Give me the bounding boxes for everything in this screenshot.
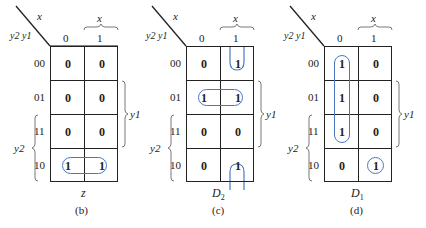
row-label-10: 10 bbox=[34, 159, 45, 171]
col-label-1: 1 bbox=[97, 32, 103, 44]
kmap-c: x y2 y1 x 0 1 00 01 11 10 y1 y2 0 1 1 1 … bbox=[136, 0, 276, 228]
row-label-01: 01 bbox=[308, 91, 319, 103]
row-var-label: y2 y1 bbox=[146, 30, 167, 41]
cell-10-0: 0 bbox=[325, 149, 359, 183]
cell-11-1: 0 bbox=[359, 115, 393, 149]
cell-00-1: 1 bbox=[221, 47, 255, 81]
caption: (d) bbox=[350, 204, 363, 216]
cell-00-0: 0 bbox=[51, 47, 85, 81]
y1-brace-label: y1 bbox=[404, 108, 414, 120]
kmap-grid: 0 0 0 0 0 0 1 1 bbox=[50, 46, 118, 182]
row-label-10: 10 bbox=[308, 159, 319, 171]
row-var-label: y2 y1 bbox=[10, 30, 31, 41]
group-loop-row-01 bbox=[198, 89, 243, 106]
caption: (c) bbox=[212, 204, 224, 216]
cell-00-1: 0 bbox=[85, 47, 119, 81]
row-label-11: 11 bbox=[308, 125, 319, 137]
row-label-11: 11 bbox=[170, 125, 181, 137]
row-var-label: y2 y1 bbox=[284, 30, 305, 41]
cell-11-1: 0 bbox=[221, 115, 255, 149]
group-loop-col-0 bbox=[334, 55, 350, 143]
function-name: D1 bbox=[351, 186, 364, 202]
row-label-01: 01 bbox=[34, 91, 45, 103]
kmap-b: x y2 y1 x 0 1 00 01 11 10 y1 y2 0 0 0 0 … bbox=[0, 0, 140, 228]
col-label-0: 0 bbox=[199, 32, 205, 44]
group-loop-single bbox=[367, 157, 384, 174]
y2-brace-label: y2 bbox=[14, 142, 24, 154]
x-brace-label: x bbox=[97, 12, 102, 24]
cell-11-0: 0 bbox=[51, 115, 85, 149]
kmap-d: x y2 y1 x 0 1 00 01 11 10 y1 y2 1 0 1 0 … bbox=[274, 0, 414, 228]
cell-11-1: 0 bbox=[85, 115, 119, 149]
row-label-01: 01 bbox=[170, 91, 181, 103]
cell-01-1: 0 bbox=[359, 81, 393, 115]
row-label-00: 00 bbox=[170, 57, 181, 69]
x-brace-label: x bbox=[371, 12, 376, 24]
col-var-label: x bbox=[173, 10, 178, 22]
y2-brace-label: y2 bbox=[288, 142, 298, 154]
kmap-grid: 0 1 1 1 0 0 0 1 bbox=[186, 46, 254, 182]
y2-brace-label: y2 bbox=[150, 142, 160, 154]
function-name: D2 bbox=[212, 186, 225, 202]
cell-11-0: 0 bbox=[187, 115, 221, 149]
cell-00-1: 0 bbox=[359, 47, 393, 81]
cell-01-1: 0 bbox=[85, 81, 119, 115]
col-var-label: x bbox=[311, 10, 316, 22]
col-label-1: 1 bbox=[371, 32, 377, 44]
col-label-1: 1 bbox=[233, 32, 239, 44]
cell-01-0: 0 bbox=[51, 81, 85, 115]
row-label-00: 00 bbox=[34, 57, 45, 69]
kmap-grid: 1 0 1 0 1 0 0 1 bbox=[324, 46, 392, 182]
group-loop bbox=[62, 157, 107, 174]
cell-00-0: 0 bbox=[187, 47, 221, 81]
function-name: z bbox=[81, 186, 86, 201]
cell-10-1: 1 bbox=[221, 149, 255, 183]
col-var-label: x bbox=[37, 10, 42, 22]
col-label-0: 0 bbox=[63, 32, 69, 44]
row-label-00: 00 bbox=[308, 57, 319, 69]
col-label-0: 0 bbox=[337, 32, 343, 44]
cell-10-0: 0 bbox=[187, 149, 221, 183]
row-label-11: 11 bbox=[34, 125, 45, 137]
caption: (b) bbox=[75, 204, 88, 216]
row-label-10: 10 bbox=[170, 159, 181, 171]
x-brace-label: x bbox=[233, 12, 238, 24]
